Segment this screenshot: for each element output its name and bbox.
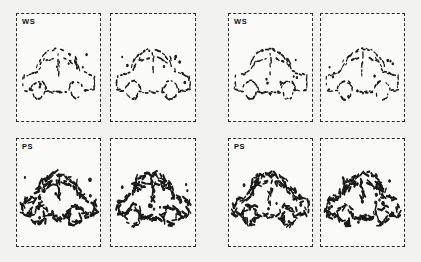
car-stimulus-right-ps-b	[321, 139, 404, 246]
car-stimulus-right-ws-a	[229, 14, 312, 121]
panel-label-left-ps-a: PS	[22, 142, 33, 151]
panel-label-left-ws-a: WS	[22, 17, 35, 26]
stimulus-panel-right-ws-a: WS	[228, 13, 313, 122]
car-stimulus-left-ps-a	[17, 139, 100, 246]
car-stimulus-right-ws-b	[321, 14, 404, 121]
car-stimulus-right-ps-a	[229, 139, 312, 246]
car-stimulus-left-ws-b	[111, 14, 195, 121]
stimulus-panel-right-ws-b	[320, 13, 405, 122]
figure-canvas: WSPSWSPS	[0, 0, 421, 262]
stimulus-panel-left-ws-a: WS	[16, 13, 101, 122]
car-stimulus-left-ws-a	[17, 14, 100, 121]
car-stimulus-left-ps-b	[111, 139, 195, 246]
panel-label-right-ps-a: PS	[234, 142, 245, 151]
stimulus-panel-right-ps-a: PS	[228, 138, 313, 247]
stimulus-panel-left-ps-b	[110, 138, 196, 247]
stimulus-panel-right-ps-b	[320, 138, 405, 247]
panel-label-right-ws-a: WS	[234, 17, 247, 26]
stimulus-panel-left-ws-b	[110, 13, 196, 122]
stimulus-panel-left-ps-a: PS	[16, 138, 101, 247]
